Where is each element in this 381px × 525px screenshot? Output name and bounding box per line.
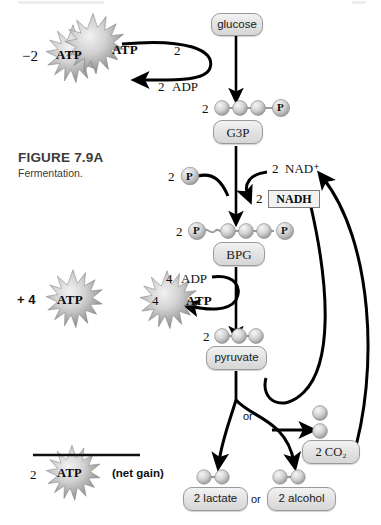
pyruvate-count: 2 — [203, 329, 210, 345]
node-pyruvate-label: pyruvate — [214, 352, 258, 364]
node-alcohol[interactable]: 2 alcohol — [267, 487, 336, 511]
figure-canvas: FIGURE 7.9A Fermentation. −2 ATP + 4 ATP… — [0, 0, 381, 525]
net-gain-note: (net gain) — [112, 467, 164, 479]
node-g3p-label: G3P — [226, 126, 249, 139]
atp-invested-count: −2 — [22, 48, 38, 65]
atp-in-label: ATP — [112, 42, 138, 58]
atp-out-count: 4 — [152, 293, 159, 309]
loop-nadh-to-branch — [265, 207, 325, 403]
atp-net-label: ATP — [57, 466, 82, 481]
lactate-carbon-chain — [197, 470, 229, 484]
node-g3p[interactable]: G3P — [213, 120, 263, 144]
adp-out-count: 2 — [158, 79, 165, 95]
phosphate-in-label: P — [186, 170, 193, 182]
arrow-to-lactate — [219, 400, 236, 462]
adp-out-label: ADP — [172, 79, 198, 95]
node-co2-label: 2 CO₂ — [315, 446, 346, 459]
node-alcohol-label: 2 alcohol — [278, 493, 324, 505]
atp-invested-label: ATP — [56, 47, 82, 63]
figure-title: FIGURE 7.9A — [18, 150, 103, 165]
node-bpg-label: BPG — [226, 248, 251, 261]
product-or-label: or — [251, 493, 261, 505]
co2-carbon-spheres — [313, 406, 328, 439]
node-lactate[interactable]: 2 lactate — [183, 487, 248, 511]
bpg-carbon-chain — [188, 222, 293, 239]
pyruvate-carbon-chain — [215, 329, 264, 344]
nadh-label-box: NADH — [268, 190, 320, 208]
bpg-phosphate-right: P — [281, 224, 288, 236]
node-co2[interactable]: 2 CO₂ — [302, 440, 360, 464]
nad-plus-count: 2 — [272, 161, 279, 177]
page-header-cut-text — [18, 1, 366, 4]
branch-or-label: or — [243, 410, 253, 422]
node-glucose-label: glucose — [217, 19, 257, 31]
node-bpg[interactable]: BPG — [213, 242, 265, 266]
node-glucose[interactable]: glucose — [211, 13, 263, 36]
atp-net-count: 2 — [30, 467, 37, 483]
nadh-count: 2 — [256, 191, 263, 207]
nad-plus-label: NAD⁺ — [285, 161, 320, 177]
atp-in-count: 2 — [174, 43, 181, 59]
loop-regenerate-nad — [323, 178, 368, 460]
g3p-count: 2 — [202, 101, 209, 117]
adp-in-count: 4 — [166, 271, 173, 287]
figure-subtitle: Fermentation. — [18, 167, 83, 179]
node-pyruvate[interactable]: pyruvate — [206, 346, 267, 370]
adp-in-label: ADP — [181, 271, 207, 287]
node-lactate-label: 2 lactate — [194, 493, 237, 505]
atp-out-label: ATP — [186, 293, 212, 309]
atp-produced-count: + 4 — [17, 292, 35, 307]
atp-produced-label: ATP — [57, 292, 83, 308]
bpg-phosphate-left: P — [193, 224, 200, 236]
alcohol-carbon-chain — [273, 470, 305, 484]
bpg-count: 2 — [176, 224, 183, 240]
phosphate-in-count: 2 — [168, 169, 175, 185]
nadh-label: NADH — [276, 192, 311, 207]
g3p-phosphate-label: P — [277, 101, 284, 113]
curve-phosphate-in — [198, 175, 228, 196]
